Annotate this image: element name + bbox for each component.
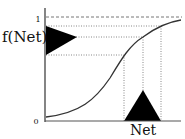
output-distribution-triangle <box>46 26 77 55</box>
x-axis-label: Net <box>130 122 157 138</box>
input-distribution-triangle <box>124 90 161 121</box>
sigmoid-diagram: 1 f(Net) 0 Net <box>0 0 185 139</box>
y-tick-one: 1 <box>35 15 40 24</box>
y-tick-zero: 0 <box>33 117 38 126</box>
y-axis-label: f(Net) <box>2 28 47 46</box>
